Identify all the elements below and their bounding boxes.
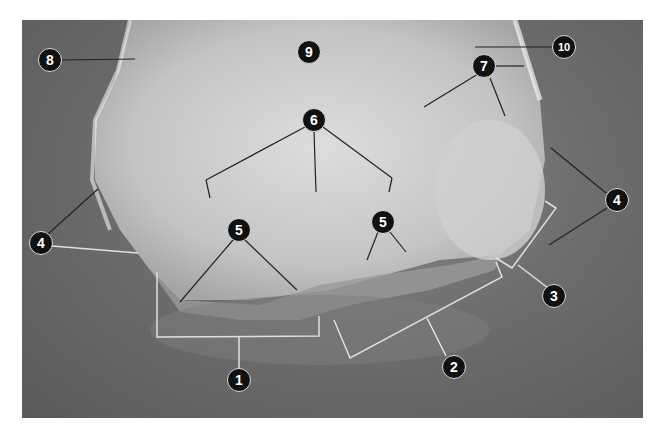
callout-2: 2	[442, 355, 466, 379]
callout-6: 6	[302, 108, 326, 132]
callout-8: 8	[38, 48, 62, 72]
callout-4-left: 4	[29, 231, 53, 255]
callout-3: 3	[542, 284, 566, 308]
callout-5-left: 5	[227, 218, 251, 242]
callout-9: 9	[297, 40, 321, 64]
callout-7: 7	[472, 54, 496, 78]
callout-5-right: 5	[371, 210, 395, 234]
callout-10: 10	[552, 35, 576, 59]
leader-lines	[0, 0, 663, 444]
callout-1: 1	[227, 368, 251, 392]
callout-4-right: 4	[605, 188, 629, 212]
